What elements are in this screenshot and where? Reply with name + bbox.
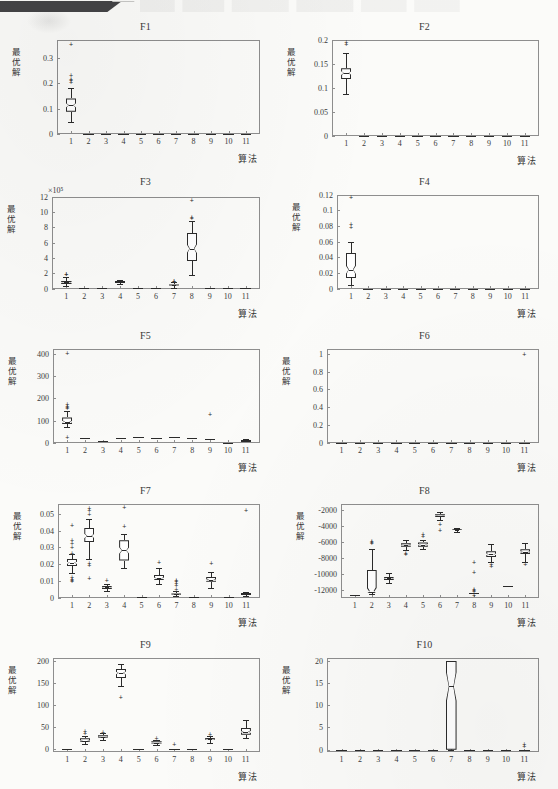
x-tick-mark xyxy=(157,440,158,443)
chart-title-f9: F9 xyxy=(6,639,285,650)
x-tick-label: 7 xyxy=(449,446,453,455)
y-tick-mark xyxy=(52,243,55,244)
x-tick-label: 2 xyxy=(87,601,91,610)
chart-title-f7: F7 xyxy=(6,485,285,496)
boxplot-outlier-marker: + xyxy=(349,193,353,200)
y-tick-mark xyxy=(327,407,330,408)
x-tick-mark xyxy=(192,440,193,443)
x-tick-label: 1 xyxy=(349,292,353,301)
boxplot-degenerate-line xyxy=(395,136,405,137)
x-tick-label: 6 xyxy=(436,292,440,301)
x-tick-mark xyxy=(406,595,407,598)
boxplot-median-line xyxy=(438,516,442,517)
y-tick-mark xyxy=(327,372,330,373)
boxplot-degenerate-line xyxy=(428,443,439,444)
y-tick-mark xyxy=(341,574,344,575)
plot-area-f5 xyxy=(53,349,260,443)
y-tick-label: 0.01 xyxy=(12,576,54,585)
boxplot-degenerate-line xyxy=(223,288,233,289)
boxplot-outlier-marker: + xyxy=(69,72,73,79)
y-tick-mark xyxy=(332,112,335,113)
boxplot-outlier-marker: + xyxy=(174,576,178,583)
boxplot-degenerate-line xyxy=(169,749,179,750)
x-tick-label: 8 xyxy=(472,601,476,610)
boxplot-degenerate-line xyxy=(464,443,475,444)
boxplot-outlier-marker: + xyxy=(190,213,194,220)
y-tick-mark xyxy=(57,83,60,84)
x-tick-label: 4 xyxy=(401,292,405,301)
boxplot-median-line xyxy=(105,587,109,588)
y-tick-label: 150 xyxy=(7,678,49,687)
x-tick-label: 1 xyxy=(340,446,344,455)
boxplot-outlier-marker: + xyxy=(64,270,68,277)
chart-cell-f9: F9最优解算法0501001502001234567891011+++++++ xyxy=(0,634,279,789)
boxplot-outlier-marker: + xyxy=(65,401,69,408)
y-tick-mark xyxy=(52,212,55,213)
chart-title-f2: F2 xyxy=(285,21,558,32)
x-tick-label: 8 xyxy=(469,139,473,148)
y-tick-mark xyxy=(327,727,330,728)
x-tick-label: 11 xyxy=(242,292,250,301)
y-tick-mark xyxy=(341,590,344,591)
boxplot-degenerate-line xyxy=(171,134,181,135)
boxplot-degenerate-line xyxy=(483,750,494,751)
x-tick-label: 5 xyxy=(421,601,425,610)
boxplot-median-line xyxy=(70,563,74,564)
boxplot-median-line xyxy=(241,440,251,441)
x-tick-mark xyxy=(389,595,390,598)
x-tick-label: 10 xyxy=(224,292,232,301)
y-tick-mark xyxy=(332,88,335,89)
boxplot-upper-cap xyxy=(118,664,124,665)
y-tick-mark xyxy=(53,376,56,377)
boxplot-median-line xyxy=(387,578,391,579)
boxplot-degenerate-line xyxy=(151,288,161,289)
x-tick-mark xyxy=(121,749,122,752)
y-tick-label: 12 xyxy=(6,192,48,201)
boxplot-upper-cap xyxy=(208,572,214,573)
boxplot-outlier-marker: + xyxy=(472,592,476,599)
boxplot-degenerate-line xyxy=(336,443,347,444)
x-tick-label: 3 xyxy=(380,139,384,148)
boxplot-median-line xyxy=(209,580,213,581)
plot-area-f10 xyxy=(327,658,539,752)
y-tick-label: 400 xyxy=(7,349,49,358)
y-tick-mark xyxy=(327,425,330,426)
boxplot-lower-cap xyxy=(82,744,88,745)
boxplot-outlier-marker: + xyxy=(70,536,74,543)
y-tick-mark xyxy=(337,242,340,243)
x-tick-mark xyxy=(210,749,211,752)
boxplot-outlier-marker: + xyxy=(119,694,123,701)
boxplot-degenerate-line xyxy=(448,136,458,137)
x-tick-label: 8 xyxy=(190,292,194,301)
y-tick-label: 4 xyxy=(6,253,48,262)
x-tick-label: 11 xyxy=(521,292,529,301)
boxplot-upper-cap xyxy=(348,242,354,243)
boxplot-degenerate-line xyxy=(187,749,197,750)
boxplot-degenerate-line xyxy=(502,136,512,137)
x-tick-label: 9 xyxy=(208,755,212,764)
y-tick-label: 0.2 xyxy=(281,421,323,430)
boxplot-degenerate-line xyxy=(450,289,460,290)
x-tick-label: 5 xyxy=(137,755,141,764)
header-faint-text xyxy=(140,0,520,12)
y-tick-label: 0.2 xyxy=(286,36,328,45)
y-tick-mark xyxy=(57,58,60,59)
x-tick-label: 6 xyxy=(157,137,161,146)
boxplot-lower-cap xyxy=(454,532,460,533)
boxplot-degenerate-line xyxy=(501,443,512,444)
chart-cell-f2: F2最优解算法00.050.10.150.21234567891011++ xyxy=(279,16,558,171)
y-tick-label: 0.02 xyxy=(12,560,54,569)
y-tick-mark xyxy=(52,197,55,198)
chart-cell-f8: F8最优解算法-2000-4000-6000-8000-10000-120001… xyxy=(279,480,558,635)
boxplot-median-line xyxy=(208,739,213,740)
boxplot-degenerate-line xyxy=(519,443,530,444)
boxplot-degenerate-line xyxy=(206,134,216,135)
x-tick-mark xyxy=(174,440,175,443)
boxplot-degenerate-line xyxy=(381,289,391,290)
x-tick-label: 11 xyxy=(242,601,250,610)
boxplot-degenerate-line xyxy=(188,134,198,135)
boxplot-lower-cap xyxy=(420,549,426,550)
boxplot-lower-cap xyxy=(156,584,162,585)
boxplot-degenerate-line xyxy=(503,289,513,290)
x-tick-label: 4 xyxy=(122,137,126,146)
